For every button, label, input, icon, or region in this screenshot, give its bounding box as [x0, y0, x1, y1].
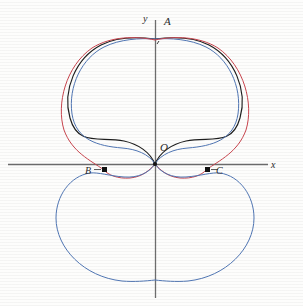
- polar-plot-svg: [0, 0, 303, 306]
- x-axis-label: x: [271, 160, 275, 170]
- point-O-marker: [153, 162, 157, 166]
- point-C-marker: [205, 167, 210, 172]
- figure-canvas: y A O B C x: [0, 0, 303, 306]
- point-A-label: A: [164, 16, 171, 27]
- point-B-marker: [102, 167, 107, 172]
- point-A-marker: [157, 41, 159, 44]
- point-B-label: B: [85, 166, 91, 176]
- point-C-label: C: [216, 166, 223, 176]
- y-axis-label: y: [143, 14, 147, 24]
- point-O-label: O: [160, 142, 168, 153]
